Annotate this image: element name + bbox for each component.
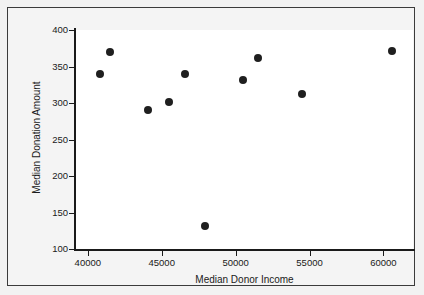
x-axis-title: Median Donor Income (74, 274, 415, 285)
data-point (96, 70, 104, 78)
y-axis-tick-label-text: 150 (38, 208, 68, 218)
x-axis-tick (383, 251, 384, 256)
y-axis-tick-label-text: 300 (38, 98, 68, 108)
y-axis-tick (69, 67, 74, 68)
scatter-plot-figure: 400350300250200150100 400004500050000550… (0, 0, 424, 295)
x-axis-tick-label: 60000 (353, 258, 413, 268)
y-axis-tick-label-text: 250 (38, 135, 68, 145)
y-axis-tick (69, 249, 74, 250)
y-axis-tick (69, 103, 74, 104)
y-axis-tick-label-text: 350 (38, 62, 68, 72)
y-axis-line (74, 28, 76, 251)
y-axis-tick (69, 176, 74, 177)
y-axis-tick (69, 140, 74, 141)
x-axis-tick-label: 45000 (132, 258, 192, 268)
y-axis-title: Median Donation Amount (31, 38, 42, 238)
x-axis-tick (162, 251, 163, 256)
figure-border: 400350300250200150100 400004500050000550… (7, 7, 415, 286)
y-axis-tick-label-text: 400 (38, 25, 68, 35)
x-axis-tick-label: 40000 (58, 258, 118, 268)
y-axis-tick-label-text: 200 (38, 171, 68, 181)
data-point (201, 222, 209, 230)
x-axis-tick-label: 55000 (280, 258, 340, 268)
x-axis-tick (88, 251, 89, 256)
x-axis-line (74, 249, 415, 251)
y-axis-tick (69, 213, 74, 214)
x-axis-tick (236, 251, 237, 256)
y-axis-tick-label: 100 (36, 244, 68, 254)
y-axis-tick-label: 400 (36, 25, 68, 35)
plot-area (76, 30, 413, 249)
x-axis-tick (310, 251, 311, 256)
data-point (106, 48, 114, 56)
y-axis-tick-label-text: 100 (38, 244, 68, 254)
y-axis-tick (69, 30, 74, 31)
x-axis-tick-label: 50000 (206, 258, 266, 268)
